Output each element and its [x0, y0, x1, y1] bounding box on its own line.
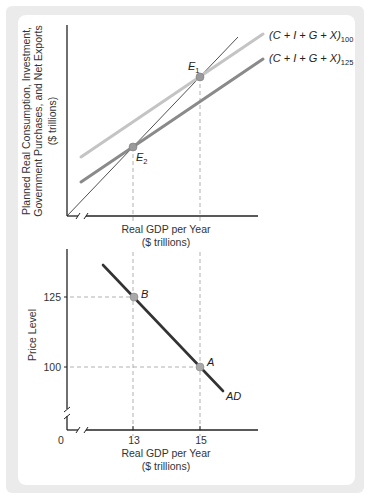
bottom-y-axis-label: Price Level — [26, 309, 38, 361]
point-b-label: B — [141, 288, 148, 300]
bottom-x-axis-label: Real GDP per Year — [121, 447, 211, 459]
diagram-canvas: Planned Real Consumption, Investment, Go… — [0, 0, 376, 498]
y-tick-label-100: 100 — [43, 361, 61, 373]
ad-curve-label: AD — [225, 390, 241, 402]
x-tick-label-0: 0 — [58, 434, 64, 446]
bottom-chart: Price Level 125 100 0 13 15 — [26, 249, 258, 472]
point-e1-label: E1 — [188, 60, 200, 75]
top-y-axis-label: Planned Real Consumption, Investment, Go… — [20, 25, 58, 216]
svg-text:Government Purchases, and Net: Government Purchases, and Net Exports — [32, 25, 44, 216]
curve-100-label: (C + I + G + X)100 — [269, 29, 353, 44]
forty-five-degree-line — [67, 37, 238, 216]
svg-text:Planned Real Consumption, Inve: Planned Real Consumption, Investment, — [20, 27, 32, 215]
curve-125-label: (C + I + G + X)125 — [269, 52, 353, 67]
top-x-axis-label: Real GDP per Year — [121, 223, 211, 235]
point-e2-label: E2 — [136, 151, 148, 166]
x-tick-label-13: 13 — [128, 434, 140, 446]
point-a-label: A — [206, 356, 214, 368]
x-tick-label-15: 15 — [195, 434, 207, 446]
figure-frame: Planned Real Consumption, Investment, Go… — [0, 0, 376, 498]
point-a — [196, 363, 204, 371]
aggregate-expenditure-100-line — [81, 34, 263, 157]
point-e2 — [129, 143, 137, 151]
bottom-x-axis-unit: ($ trillions) — [142, 460, 190, 472]
point-b — [130, 293, 138, 301]
svg-text:($ trillions): ($ trillions) — [46, 97, 58, 145]
y-tick-label-125: 125 — [43, 291, 61, 303]
top-x-axis-unit: ($ trillions) — [142, 236, 190, 248]
aggregate-expenditure-125-line — [81, 59, 263, 182]
top-chart: Planned Real Consumption, Investment, Go… — [20, 25, 353, 436]
aggregate-demand-line — [103, 265, 223, 391]
